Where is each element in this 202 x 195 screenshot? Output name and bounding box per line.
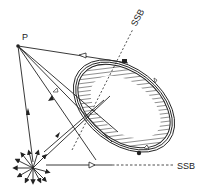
hollow-arrow-icon — [89, 162, 95, 168]
label-point-p: P — [22, 32, 28, 42]
label-ssb-bottom: SSB — [177, 161, 195, 171]
arrow-up-icon — [53, 88, 58, 92]
marker-filled-icon — [137, 151, 141, 155]
radiating-source — [15, 152, 48, 182]
ray-arrowheads — [26, 88, 60, 138]
arrow-up-icon — [48, 95, 54, 101]
marker-filled-icon — [122, 59, 127, 63]
arrow-up-icon — [55, 132, 60, 138]
point-p-dot — [16, 44, 20, 48]
diagram-canvas: P SSB SSB — [0, 0, 202, 195]
hollow-arrow-icon — [79, 53, 86, 58]
label-ssb-top: SSB — [129, 7, 146, 28]
